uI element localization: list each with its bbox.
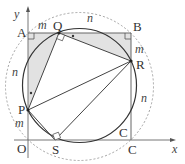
point-r [129, 59, 132, 62]
angle-dot-q [72, 35, 74, 37]
origin-label: O [17, 141, 26, 156]
segment-label-pa: n [12, 65, 18, 79]
point-label-q: Q [53, 18, 63, 33]
x-axis-label: x [171, 142, 178, 156]
y-axis-label: y [13, 7, 20, 21]
angle-dot-p [30, 92, 32, 94]
segment-label-op: m [15, 116, 24, 130]
segment-label-qb: n [87, 11, 93, 25]
arc-label-c: C [119, 125, 128, 140]
point-label-b: B [133, 19, 142, 34]
segment-label-br: m [135, 42, 144, 56]
point-p [26, 108, 29, 111]
point-label-c: C [128, 142, 137, 157]
point-label-p: P [18, 102, 25, 117]
segment-label-rc: n [141, 91, 147, 105]
segment-label-aq: m [38, 18, 47, 32]
diagram-canvas: y x O A B C Q R P S m n m n C m n [0, 0, 185, 164]
geometry-diagram: y x O A B C Q R P S m n m n C m n [0, 0, 185, 164]
y-axis-arrow-icon [26, 6, 30, 12]
point-label-a: A [17, 25, 27, 40]
point-label-s: S [52, 142, 59, 157]
point-label-r: R [136, 57, 145, 72]
